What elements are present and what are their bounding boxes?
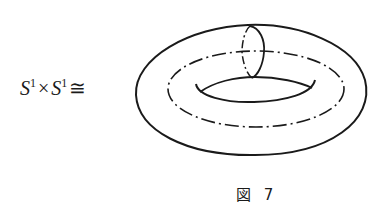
- torus-outer-contour: [136, 25, 366, 155]
- figure-caption: 図 7: [236, 183, 277, 204]
- torus-diagram: [0, 0, 390, 216]
- torus-core-dashdot-circle: [168, 51, 344, 127]
- torus-meridian-front: [250, 26, 264, 78]
- torus-inner-hole-upper: [200, 77, 312, 92]
